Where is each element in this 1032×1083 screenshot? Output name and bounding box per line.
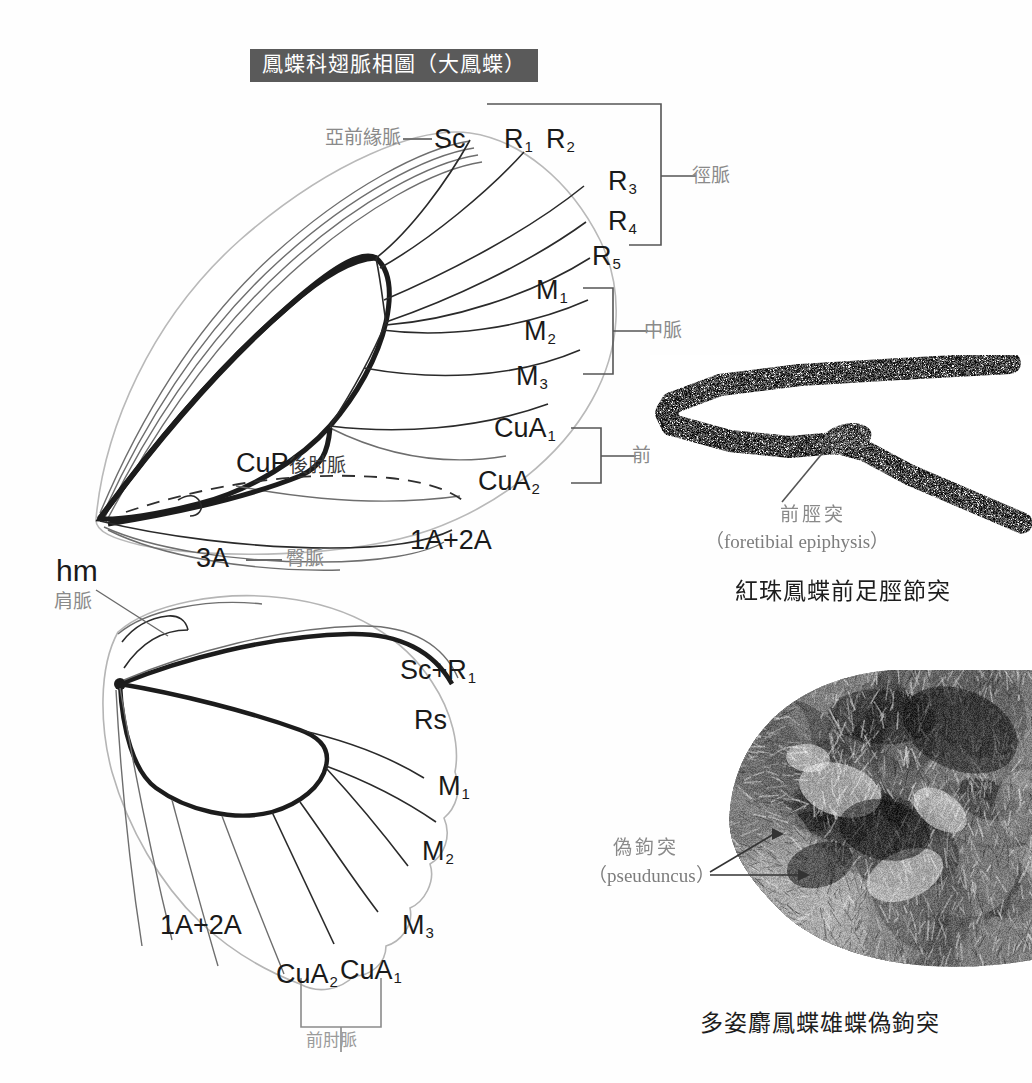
- label-r2: R2: [546, 126, 574, 153]
- caption-genitalia: 多姿麝鳳蝶雄蝶偽鉤突: [700, 1012, 940, 1035]
- label-m2: M2: [524, 318, 555, 345]
- label-m2-hindwing: M2: [422, 838, 453, 865]
- foretibia-callout-svg: [760, 440, 880, 510]
- label-1a2a-hindwing: 1A+2A: [160, 912, 242, 939]
- label-hm: hm: [56, 556, 98, 586]
- label-cua1-hindwing: CuA1: [340, 957, 401, 984]
- label-sc: Sc: [434, 126, 466, 153]
- label-1a2a-forewing: 1A+2A: [410, 527, 492, 554]
- label-m3-hindwing: M3: [402, 912, 433, 939]
- caption-foretibia: 紅珠鳳蝶前足脛節突: [735, 580, 951, 603]
- pseuduncus-callout-svg: [700, 820, 830, 890]
- label-cua2: CuA2: [478, 468, 539, 495]
- label-cua2-hindwing: CuA2: [276, 961, 337, 988]
- label-foretibial-sci: （foretibial epiphysis）: [705, 532, 889, 551]
- label-subcostal-cn: 亞前緣脈: [325, 128, 401, 147]
- label-hindwing-cubital-cn: 前肘脈: [306, 1032, 357, 1049]
- label-pseuduncus-cn: 偽鉤突: [613, 838, 679, 857]
- label-r3: R3: [608, 168, 636, 195]
- label-r4: R4: [608, 208, 636, 235]
- label-radial-bracket-cn: 徑脈: [692, 166, 730, 185]
- label-r1: R1: [504, 126, 532, 153]
- label-cua1: CuA1: [494, 415, 555, 442]
- label-rs-hindwing: Rs: [414, 707, 447, 734]
- label-foretibial-cn: 前脛突: [780, 505, 846, 524]
- label-m1: M1: [536, 277, 567, 304]
- label-m3: M3: [516, 363, 547, 390]
- cubital-bracket: [571, 428, 601, 483]
- label-pseuduncus-sci: （pseuduncus）: [588, 866, 715, 885]
- label-r5: R5: [592, 243, 620, 270]
- label-medial-bracket-cn: 中脈: [644, 321, 682, 340]
- label-m1-hindwing: M1: [438, 773, 469, 800]
- label-cup: CuP後肘脈: [236, 450, 346, 477]
- label-sc-r1-hindwing: Sc+R1: [400, 657, 475, 684]
- label-hm-cn: 肩脈: [54, 592, 92, 611]
- plate-background: 鳳蝶科翅脈相圖（大鳳蝶）: [0, 0, 1032, 1083]
